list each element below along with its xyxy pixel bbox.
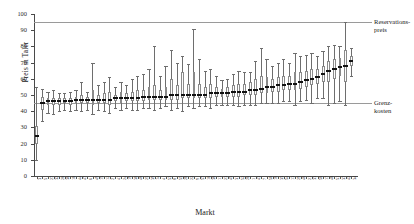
upper-whisker-cap: [265, 59, 268, 60]
median-bar: [152, 96, 156, 98]
upper-whisker: [300, 56, 301, 72]
upper-whisker-cap: [204, 71, 207, 72]
lower-whisker: [339, 76, 340, 102]
upper-whisker: [261, 48, 262, 76]
median-bar: [265, 86, 269, 88]
upper-whisker-cap: [131, 79, 134, 80]
median-bar: [147, 96, 151, 98]
y-axis-tick-label: 60: [5, 76, 27, 82]
median-bar: [186, 94, 190, 96]
upper-whisker: [227, 79, 228, 87]
median-bar: [253, 89, 257, 91]
lower-whisker: [222, 97, 223, 105]
lower-whisker: [160, 100, 161, 108]
median-bar: [102, 99, 106, 101]
lower-whisker-cap: [147, 108, 150, 109]
lower-whisker-cap: [310, 103, 313, 104]
median-bar: [79, 99, 83, 101]
upper-whisker-cap: [46, 92, 49, 93]
upper-whisker: [255, 61, 256, 79]
lower-whisker-cap: [333, 103, 336, 104]
upper-whisker-cap: [226, 79, 229, 80]
median-bar: [35, 135, 39, 137]
upper-whisker: [182, 56, 183, 72]
lower-whisker: [81, 103, 82, 111]
upper-whisker: [143, 74, 144, 90]
y-axis-tick-label: 30: [5, 124, 27, 130]
upper-whisker-cap: [282, 59, 285, 60]
median-bar: [248, 89, 252, 91]
upper-whisker: [351, 48, 352, 56]
median-bar: [57, 100, 61, 102]
y-axis-tick-label: 50: [5, 92, 27, 98]
upper-whisker-cap: [338, 46, 341, 47]
median-bar: [46, 100, 50, 102]
upper-whisker: [244, 72, 245, 83]
lower-whisker: [283, 90, 284, 101]
upper-whisker-cap: [350, 48, 353, 49]
lower-whisker: [323, 82, 324, 98]
lower-whisker-cap: [260, 103, 263, 104]
x-axis-title: Markt: [0, 208, 410, 217]
marginal-cost-line2: kosten: [374, 107, 414, 115]
upper-whisker-cap: [209, 69, 212, 70]
lower-whisker: [36, 144, 37, 160]
y-axis-tick-label: 20: [5, 141, 27, 147]
median-bar: [237, 91, 241, 93]
lower-whisker-cap: [299, 101, 302, 102]
lower-whisker-cap: [305, 100, 308, 101]
lower-whisker-cap: [164, 106, 167, 107]
lower-whisker-cap: [220, 105, 223, 106]
lower-whisker: [238, 97, 239, 107]
upper-whisker: [266, 59, 267, 77]
lower-whisker: [87, 103, 88, 109]
lower-whisker-cap: [277, 103, 280, 104]
box-plot-item[interactable]: [348, 0, 354, 176]
upper-whisker: [339, 46, 340, 57]
lower-whisker-cap: [170, 110, 173, 111]
upper-whisker: [121, 82, 122, 92]
lower-whisker-cap: [293, 105, 296, 106]
x-axis-tick-label: 34: [353, 176, 357, 180]
lower-whisker-cap: [215, 105, 218, 106]
lower-whisker-cap: [243, 105, 246, 106]
upper-whisker: [328, 46, 329, 61]
upper-whisker-cap: [187, 64, 190, 65]
median-bar: [51, 100, 55, 102]
median-bar: [332, 68, 336, 70]
upper-whisker-cap: [271, 66, 274, 67]
median-bar: [158, 96, 162, 98]
interquartile-box: [204, 87, 207, 98]
lower-whisker-cap: [237, 106, 240, 107]
lower-whisker-cap: [97, 110, 100, 111]
lower-whisker-cap: [187, 106, 190, 107]
interquartile-box: [136, 90, 139, 101]
upper-whisker-cap: [192, 29, 195, 30]
upper-whisker-cap: [260, 48, 263, 49]
lower-whisker-cap: [254, 105, 257, 106]
upper-whisker: [92, 63, 93, 91]
lower-whisker-cap: [198, 106, 201, 107]
median-bar: [68, 100, 72, 102]
y-axis-tick-label: 40: [5, 108, 27, 114]
lower-whisker: [104, 103, 105, 111]
upper-whisker-cap: [41, 89, 44, 90]
upper-whisker: [149, 69, 150, 87]
upper-whisker-cap: [288, 63, 291, 64]
upper-whisker: [283, 59, 284, 75]
lower-whisker: [328, 82, 329, 105]
y-axis-tick-label: 100: [5, 11, 27, 17]
lower-whisker-cap: [131, 110, 134, 111]
upper-whisker-cap: [299, 56, 302, 57]
upper-whisker-cap: [159, 76, 162, 77]
y-axis-tick-label: 90: [5, 27, 27, 33]
lower-whisker-cap: [74, 110, 77, 111]
lower-whisker: [126, 101, 127, 107]
lower-whisker: [64, 103, 65, 109]
lower-whisker-cap: [321, 98, 324, 99]
median-bar: [74, 99, 78, 101]
lower-whisker: [121, 103, 122, 109]
upper-whisker: [109, 77, 110, 92]
lower-whisker: [188, 98, 189, 106]
lower-whisker-cap: [282, 101, 285, 102]
